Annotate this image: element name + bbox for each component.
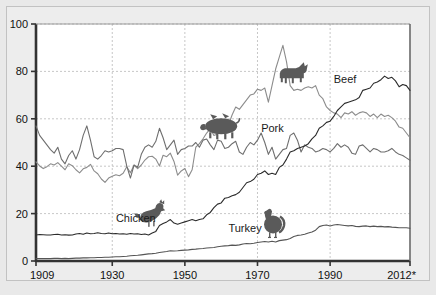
y-tick-label: 0 (22, 255, 28, 267)
series-label-pork: Pork (261, 122, 284, 134)
series-label-turkey: Turkey (228, 222, 262, 234)
x-tick-label: 1930 (100, 269, 124, 281)
y-tick-label: 60 (16, 113, 28, 125)
x-tick-label: 1970 (245, 269, 269, 281)
series-label-chicken: Chicken (116, 212, 156, 224)
x-tick-label: 1990 (318, 269, 342, 281)
chart-root: 020406080100190919301950197019902012*Bee… (0, 0, 436, 295)
y-tick-label: 80 (16, 65, 28, 77)
y-tick-label: 100 (10, 18, 28, 30)
series-label-beef: Beef (334, 73, 358, 85)
meat-consumption-line-chart: 020406080100190919301950197019902012*Bee… (0, 0, 436, 295)
x-tick-label: 1909 (30, 269, 54, 281)
y-tick-label: 20 (16, 208, 28, 220)
x-tick-label: 2012* (387, 269, 416, 281)
chart-plot-wrapper: 020406080100190919301950197019902012*Bee… (0, 0, 436, 295)
y-tick-label: 40 (16, 160, 28, 172)
x-tick-label: 1950 (173, 269, 197, 281)
